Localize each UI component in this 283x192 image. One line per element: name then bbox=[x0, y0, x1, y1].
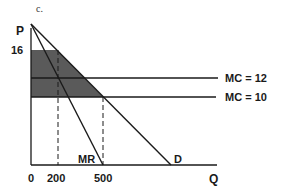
shaded-surplus-area bbox=[31, 50, 103, 97]
y-axis-label: P bbox=[16, 24, 24, 38]
mc-12-label: MC = 12 bbox=[225, 72, 267, 84]
mc-10-label: MC = 10 bbox=[225, 91, 267, 103]
x-tick-500: 500 bbox=[94, 172, 112, 184]
x-axis-label: Q bbox=[209, 172, 218, 186]
demand-label: D bbox=[174, 153, 182, 165]
y-tick-16: 16 bbox=[11, 44, 23, 56]
figure-caption: c. bbox=[36, 3, 43, 14]
mr-label: MR bbox=[78, 153, 95, 165]
origin-label: 0 bbox=[28, 172, 34, 184]
x-tick-200: 200 bbox=[47, 172, 65, 184]
